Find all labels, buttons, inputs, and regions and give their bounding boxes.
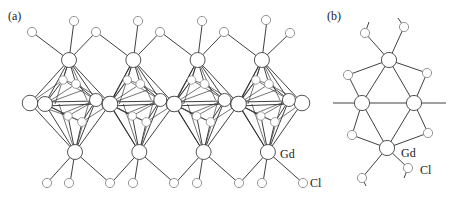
cl-atom	[27, 27, 36, 36]
inner-atom	[206, 118, 215, 127]
cl-atom	[42, 178, 51, 187]
cl-atom	[219, 27, 228, 36]
gd-atom	[68, 145, 83, 160]
cl-atom	[69, 16, 78, 25]
inner-atom	[271, 118, 280, 127]
gd-atom	[260, 145, 275, 160]
gd-atom	[379, 140, 394, 155]
gd-atom	[126, 53, 141, 68]
gd-atom	[406, 95, 421, 110]
panel-a: (a) Gd Cl	[8, 9, 322, 190]
cl-atom	[64, 178, 73, 187]
gd-atom	[38, 97, 53, 112]
gd-atom-label: Gd	[280, 147, 295, 161]
cl-atom	[192, 178, 201, 187]
cl-atom	[343, 70, 352, 79]
gd-atom	[196, 145, 211, 160]
gd-atom	[102, 96, 118, 112]
inner-atom	[142, 118, 151, 127]
cl-atom	[155, 27, 164, 36]
cl-atom	[257, 178, 266, 187]
gd-atom	[132, 145, 147, 160]
cl-atom	[399, 22, 408, 31]
inner-atom	[78, 118, 87, 127]
inner-atom	[128, 112, 136, 120]
cl-atom	[197, 16, 206, 25]
cl-atom	[234, 178, 243, 187]
cl-atom-label: Cl	[420, 163, 432, 177]
gd-atom	[282, 94, 295, 107]
cl-atom	[347, 130, 356, 139]
cl-atom	[128, 178, 137, 187]
inner-atom	[64, 112, 72, 120]
gd-atom	[218, 94, 231, 107]
panel-a-label: (a)	[8, 9, 21, 23]
inner-atom	[136, 80, 145, 89]
cl-atom	[261, 15, 270, 24]
gd-atom	[190, 53, 205, 68]
cl-atom	[423, 128, 432, 137]
gd-atom	[167, 96, 183, 112]
cl-atom	[298, 178, 307, 187]
cl-atom	[360, 28, 369, 37]
inner-atom	[192, 112, 200, 120]
inner-atom	[72, 80, 81, 89]
inner-atom	[187, 76, 195, 84]
gd-atom	[154, 94, 167, 107]
inner-atom	[257, 112, 265, 120]
inner-atom	[265, 80, 274, 89]
inner-atom	[123, 76, 131, 84]
gd-atom	[62, 53, 77, 68]
gd-atom	[231, 96, 247, 112]
cl-atom	[422, 68, 431, 77]
gd-atom	[381, 52, 396, 67]
bond-line	[75, 100, 96, 152]
gd-atom	[22, 95, 38, 111]
panel-b-label: (b)	[327, 9, 341, 23]
gd-atom	[254, 53, 269, 68]
bond-line	[139, 100, 160, 152]
inner-atom	[252, 76, 260, 84]
cl-atom	[105, 178, 114, 187]
gd-atom	[354, 95, 369, 110]
panel-b: (b) Gd Cl	[327, 9, 446, 186]
inner-atom	[59, 76, 67, 84]
cl-atom	[133, 16, 142, 25]
panel-b-bonds	[333, 18, 446, 186]
crystal-structure-figure: (a) Gd Cl (b) Gd Cl	[0, 0, 455, 197]
inner-atom	[200, 80, 209, 89]
cl-atom	[357, 173, 366, 182]
gd-atom-label: Gd	[401, 146, 416, 160]
cl-atom-label: Cl	[310, 176, 322, 190]
cl-atom	[403, 163, 412, 172]
gd-atom	[90, 94, 103, 107]
gd-atom	[294, 95, 310, 111]
cl-atom	[91, 27, 100, 36]
bond-line	[204, 100, 225, 152]
cl-atom	[169, 178, 178, 187]
cl-atom	[285, 28, 294, 37]
panel-b-atoms	[343, 22, 432, 182]
